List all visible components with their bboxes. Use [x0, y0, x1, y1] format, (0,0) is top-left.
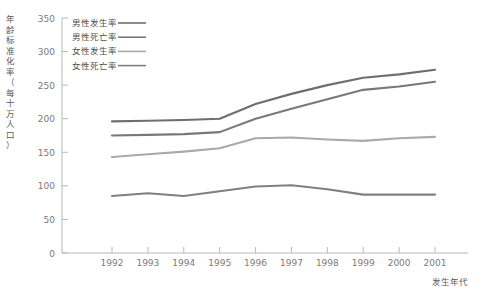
- x-tick-label: 2000: [388, 258, 411, 268]
- series-line: [112, 82, 435, 136]
- legend-label: 女性死亡率: [72, 61, 117, 71]
- x-axis-tick-group: 1992199319941995199619971998199920002001: [101, 247, 447, 268]
- legend-label: 男性发生率: [72, 18, 117, 28]
- legend-label: 男性死亡率: [72, 32, 117, 42]
- x-tick-label: 1995: [208, 258, 231, 268]
- series-line: [112, 137, 435, 157]
- data-series-group: [112, 70, 435, 196]
- x-tick-label: 1994: [172, 258, 195, 268]
- y-tick-label: 350: [38, 14, 55, 24]
- y-axis-tick-group: 050100150200250300350: [38, 14, 68, 259]
- chart-container: 年 龄 标 准 化 率 （ 每 十 万 人 口 ） 05010015020025…: [0, 0, 491, 295]
- y-tick-label: 300: [38, 47, 55, 57]
- y-tick-label: 100: [38, 181, 55, 191]
- y-tick-label: 200: [38, 114, 55, 124]
- x-tick-label: 1998: [316, 258, 339, 268]
- x-tick-label: 1993: [136, 258, 159, 268]
- y-tick-label: 150: [38, 148, 55, 158]
- x-tick-label: 1999: [352, 258, 375, 268]
- x-tick-label: 1997: [280, 258, 303, 268]
- line-chart-plot: 050100150200250300350 199219931994199519…: [0, 0, 491, 295]
- x-tick-label: 1996: [244, 258, 267, 268]
- series-line: [112, 185, 435, 196]
- x-tick-label: 1992: [101, 258, 124, 268]
- y-tick-label: 50: [44, 215, 56, 225]
- x-axis-title: 发生年代: [432, 277, 468, 287]
- legend-label: 女性发生率: [72, 46, 117, 56]
- legend: 男性发生率男性死亡率女性发生率女性死亡率: [72, 18, 146, 71]
- y-axis-title: 年 龄 标 准 化 率 （ 每 十 万 人 口 ）: [3, 14, 17, 151]
- y-tick-label: 250: [38, 81, 55, 91]
- y-tick-label: 0: [49, 249, 55, 259]
- x-tick-label: 2001: [424, 258, 447, 268]
